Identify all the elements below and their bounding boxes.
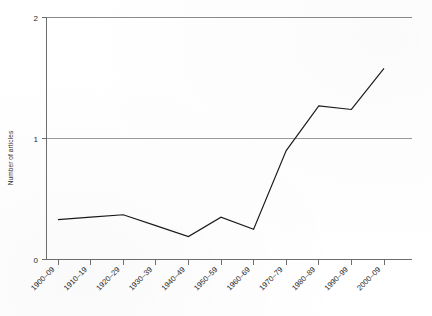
data-series-line [58, 68, 384, 236]
y-tick-label-1: 1 [34, 135, 39, 144]
x-tick-label-1920-29: 1920–29 [94, 265, 121, 292]
x-tick-label-1950-59: 1950–59 [192, 265, 219, 292]
x-tick-label-2000-09: 2000–09 [355, 265, 382, 292]
x-tick-label-1960-69: 1960–69 [225, 265, 252, 292]
line-chart-figure: Number of articles 0 1 2 [0, 0, 432, 316]
x-tick-label-1980-89: 1980–89 [290, 265, 317, 292]
x-tick-label-1900-09: 1900–09 [29, 265, 56, 292]
x-tick-label-1970-79: 1970–79 [257, 265, 284, 292]
x-tick-marks [58, 260, 384, 265]
y-tick-label-0: 0 [34, 256, 39, 265]
x-tick-label-1930-39: 1930–39 [127, 265, 154, 292]
x-tick-label-1910-19: 1910–19 [62, 265, 89, 292]
y-tick-label-2: 2 [34, 14, 39, 23]
x-tick-label-1940-49: 1940–49 [160, 265, 187, 292]
x-tick-label-1990-99: 1990–99 [323, 265, 350, 292]
chart-plot-area: 0 1 2 1900–09 1910–19 1920–29 1930–39 19… [0, 0, 432, 316]
